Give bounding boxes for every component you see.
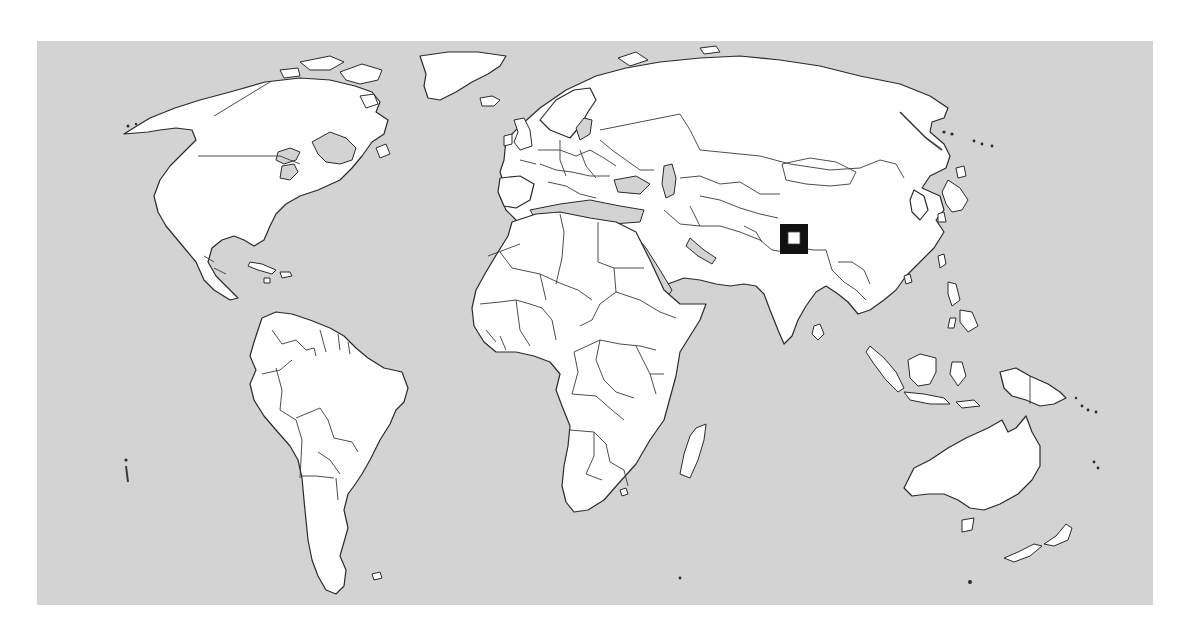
location-marker[interactable] xyxy=(780,224,808,254)
australia[interactable] xyxy=(679,416,1072,584)
greenland[interactable] xyxy=(420,52,506,106)
north-america[interactable] xyxy=(124,56,390,300)
world-map[interactable]: world-political-outline xyxy=(37,41,1153,605)
map-canvas xyxy=(37,41,1153,605)
south-america[interactable] xyxy=(124,312,408,594)
